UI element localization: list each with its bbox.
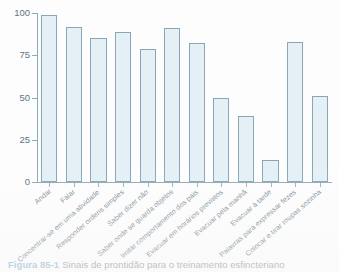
y-tick-label: 25: [0, 135, 30, 145]
figure-number: Figura 85-1: [8, 259, 59, 270]
y-tick-label: 100: [0, 8, 30, 18]
bar: [90, 38, 106, 182]
bar: [213, 98, 229, 183]
x-axis-category-labels: AndarFalarConcentrar-se em uma atividade…: [0, 186, 339, 258]
bar: [164, 28, 180, 182]
figure-caption-text: Sinais de prontidão para o treinamento e…: [62, 259, 284, 270]
bar: [312, 96, 328, 182]
x-axis-label: Andar: [33, 188, 53, 207]
bar: [66, 27, 82, 182]
bar: [189, 43, 205, 182]
chart-plot-area: 0255075100: [0, 0, 339, 200]
bar: [41, 15, 57, 182]
bar: [287, 42, 303, 182]
bar: [115, 32, 131, 182]
x-axis-line: [37, 182, 332, 183]
y-tick-mark: [32, 182, 37, 183]
bar: [140, 49, 156, 183]
bar: [262, 160, 278, 182]
figure-container: 0255075100 AndarFalarConcentrar-se em um…: [0, 0, 339, 272]
bar-series: [37, 13, 332, 182]
bar: [238, 116, 254, 182]
figure-caption: Figura 85-1Sinais de prontidão para o tr…: [8, 259, 339, 271]
y-tick-label: 75: [0, 50, 30, 60]
y-tick-label: 50: [0, 93, 30, 103]
x-axis-label: Falar: [59, 188, 77, 205]
